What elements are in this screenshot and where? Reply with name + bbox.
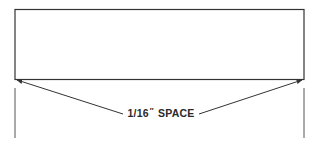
inch-mark: ″ bbox=[150, 106, 154, 115]
spacing-diagram bbox=[0, 0, 320, 146]
spacing-label: 1/16″ SPACE bbox=[123, 106, 199, 120]
left-arrow bbox=[17, 80, 123, 114]
panel-rectangle bbox=[15, 10, 304, 80]
right-arrow bbox=[199, 80, 302, 114]
spacing-word: SPACE bbox=[158, 107, 194, 119]
spacing-fraction: 1/16 bbox=[128, 107, 149, 119]
